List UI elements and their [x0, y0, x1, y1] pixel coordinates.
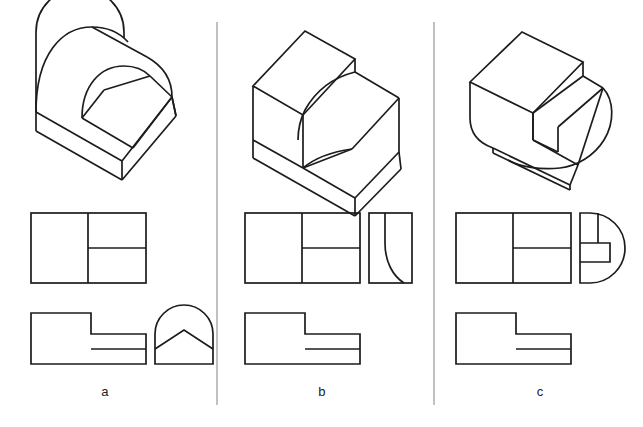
iso-b-base-right-vertical — [399, 152, 401, 169]
column-a: a — [31, 0, 213, 399]
column-b: b — [245, 31, 412, 399]
iso-c-underside-edge — [493, 153, 570, 190]
column-label-c: c — [537, 384, 544, 399]
column-label-b: b — [318, 384, 325, 399]
column-c: c — [456, 32, 625, 399]
front-view-c — [456, 313, 571, 364]
front-view-b-outline — [245, 313, 360, 364]
iso-c-step-right-lower — [570, 165, 578, 185]
iso-c-mid-step-top-back — [583, 76, 603, 88]
iso-b-lower-top-back — [355, 72, 399, 98]
figure-canvas: a — [0, 0, 643, 427]
iso-a-base-front-top-left — [36, 112, 122, 161]
top-view-b — [245, 213, 360, 283]
iso-b-base-right-top — [355, 152, 399, 198]
iso-b-base-front-vertical — [303, 168, 355, 198]
column-label-a: a — [101, 384, 109, 399]
iso-b-upper-top-face — [253, 31, 355, 115]
side-view-c-outline — [580, 213, 625, 283]
iso-c-mid-step-top-front — [533, 76, 583, 113]
iso-a-arch-outer — [36, 0, 124, 112]
top-view-c — [456, 213, 571, 283]
top-view-a — [31, 213, 146, 283]
side-view-c — [580, 213, 625, 283]
side-view-a-outline — [155, 305, 213, 364]
front-view-a-outline — [31, 313, 146, 364]
iso-c-mid-step-bottom-front — [533, 140, 558, 152]
iso-a-arch-right-foot — [172, 97, 176, 116]
iso-a-arch-ridge — [92, 27, 147, 57]
side-view-b-s-curve — [385, 213, 404, 283]
side-view-a — [155, 305, 213, 364]
iso-a-arch-inner-curve — [82, 66, 150, 118]
iso-c-upper-top-face — [470, 32, 583, 113]
isometric-a — [36, 0, 176, 180]
iso-c-round-left-corner — [470, 118, 493, 148]
iso-c-round-right-outer-arc — [560, 88, 612, 168]
iso-a-ramp-back-edge — [104, 76, 150, 90]
isometric-b — [253, 31, 401, 216]
iso-b-lower-floor-front — [303, 149, 352, 168]
iso-a-base-front-bottom-left — [36, 131, 122, 180]
side-view-b — [369, 213, 412, 283]
side-view-b-outline — [369, 213, 412, 283]
side-view-c-notch — [580, 213, 610, 262]
front-view-a — [31, 313, 146, 364]
iso-b-lower-top-front-right — [352, 98, 399, 149]
front-view-b — [245, 313, 360, 364]
iso-b-fillet-curve-upper — [298, 72, 355, 140]
iso-b-base-right-bottom — [355, 169, 401, 216]
iso-b-upper-front-bottom — [253, 140, 303, 168]
technical-drawing-figure: a — [0, 0, 643, 427]
side-view-a-peak-line — [155, 330, 213, 349]
front-view-c-outline — [456, 313, 571, 364]
isometric-c — [470, 32, 612, 190]
